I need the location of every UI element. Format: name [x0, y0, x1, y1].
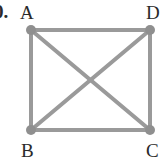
- vertex-label-d: D: [146, 3, 160, 22]
- square-with-diagonals-diagram: [0, 0, 161, 163]
- vertex-label-b: B: [21, 141, 34, 160]
- vertex-b-dot: [26, 125, 36, 135]
- vertex-a-dot: [26, 25, 36, 35]
- vertex-c-dot: [145, 125, 155, 135]
- vertex-label-a: A: [20, 3, 34, 22]
- vertex-label-c: C: [146, 141, 159, 160]
- vertex-d-dot: [145, 25, 155, 35]
